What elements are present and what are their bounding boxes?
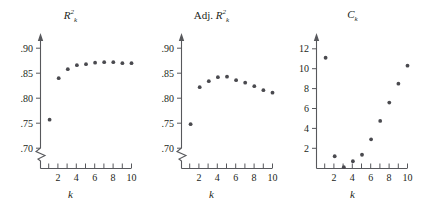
ytick-label: .75 [21, 118, 34, 129]
plot-area-r-squared: .90 .85 .80 .75 .70 2 4 6 8 [0, 0, 141, 220]
panel-r-squared: R2k .90 .85 .80 .75 .70 [0, 0, 141, 220]
data-point [111, 60, 115, 64]
xtick-label: 10 [127, 172, 137, 183]
data-point [93, 61, 97, 65]
xaxis-label-k: k [282, 188, 423, 200]
ytick-label: 12 [299, 43, 309, 54]
xtick-label: 8 [252, 172, 257, 183]
y-axis-arrow-icon [314, 33, 319, 41]
data-point [360, 153, 364, 157]
data-points-r-squared [48, 60, 134, 121]
panel-adj-r-squared: Adj. R2k .90 .85 .80 .75 .70 [141, 0, 282, 220]
plot-area-adj-r-squared: .90 .85 .80 .75 .70 2 4 6 8 10 [141, 0, 282, 220]
xtick-label: 2 [196, 172, 201, 183]
xtick-label: 4 [74, 172, 79, 183]
three-panel-scatter-figure: R2k .90 .85 .80 .75 .70 [0, 0, 424, 220]
ytick-label: 4 [304, 123, 309, 134]
xtick-label: 10 [403, 172, 413, 183]
data-point [225, 75, 229, 79]
xtick-label: 2 [331, 172, 336, 183]
ytick-label: 10 [299, 63, 309, 74]
data-point [333, 154, 337, 158]
data-points-ck [324, 56, 410, 169]
ytick-label: 8 [304, 83, 309, 94]
ytick-label: .90 [162, 43, 175, 54]
ytick-label: .75 [162, 118, 175, 129]
ytick-label: .85 [162, 68, 175, 79]
ytick-label: .70 [162, 143, 175, 154]
xtick-label: 2 [55, 172, 60, 183]
data-point [369, 137, 373, 141]
data-point [406, 64, 410, 68]
data-point [252, 84, 256, 88]
data-point [66, 67, 70, 71]
data-point [198, 85, 202, 89]
xtick-label: 8 [111, 172, 116, 183]
data-point [378, 119, 382, 123]
data-point [102, 60, 106, 64]
xtick-label: 10 [268, 172, 278, 183]
y-axis-arrow-icon [38, 33, 43, 41]
data-point [216, 75, 220, 79]
xtick-label: 6 [92, 172, 97, 183]
ytick-label: 2 [304, 143, 309, 154]
data-point [48, 118, 52, 122]
xaxis-label-k: k [141, 188, 282, 200]
y-axis-arrow-icon [179, 33, 184, 41]
data-point [121, 61, 125, 65]
plot-area-ck: 12 10 8 6 4 2 2 4 6 8 10 [282, 0, 423, 220]
xtick-label: 8 [387, 172, 392, 183]
ytick-label: .80 [21, 93, 34, 104]
xtick-label: 4 [215, 172, 220, 183]
data-point [243, 81, 247, 85]
data-point [207, 79, 211, 83]
data-point [342, 165, 346, 169]
ytick-label: .90 [21, 43, 34, 54]
data-point [57, 76, 61, 80]
data-point [397, 82, 401, 86]
data-point [84, 62, 88, 66]
ytick-label: 6 [304, 103, 309, 114]
ytick-label: .85 [21, 68, 34, 79]
data-point [387, 101, 391, 105]
data-point [351, 159, 355, 163]
data-point [75, 63, 79, 67]
xaxis-label-k: k [0, 188, 141, 200]
xtick-label: 6 [233, 172, 238, 183]
data-point [130, 61, 134, 65]
xtick-label: 4 [350, 172, 355, 183]
data-point [189, 122, 193, 126]
data-points-adj-r-squared [189, 75, 275, 126]
data-point [324, 56, 328, 60]
data-point [234, 78, 238, 82]
ytick-label: .70 [21, 143, 34, 154]
data-point [271, 91, 275, 95]
panel-ck: Ck 12 10 8 6 4 2 [282, 0, 423, 220]
ytick-label: .80 [162, 93, 175, 104]
xtick-label: 6 [368, 172, 373, 183]
data-point [262, 88, 266, 92]
